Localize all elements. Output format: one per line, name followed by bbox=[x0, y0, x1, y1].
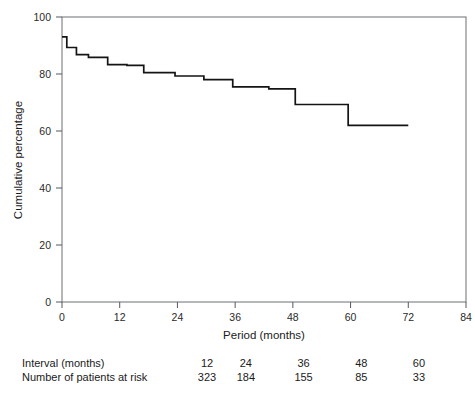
x-tick-label: 12 bbox=[114, 311, 126, 323]
risk-table-element: Interval (months)1224364860 Number of pa… bbox=[0, 356, 475, 384]
x-tick-label: 24 bbox=[172, 311, 184, 323]
risk-cell: 33 bbox=[390, 370, 448, 384]
x-axis-ticks: 012243648607284 bbox=[59, 302, 472, 323]
y-tick-label: 100 bbox=[33, 11, 51, 23]
step-curve bbox=[62, 37, 408, 125]
risk-cell: 12 bbox=[197, 356, 217, 370]
x-axis-label: Period (months) bbox=[223, 329, 305, 341]
x-tick-label: 36 bbox=[229, 311, 241, 323]
risk-cell: 184 bbox=[217, 370, 275, 384]
risk-cell: 24 bbox=[217, 356, 275, 370]
x-tick-label: 84 bbox=[460, 311, 472, 323]
x-tick-label: 48 bbox=[287, 311, 299, 323]
plot-frame bbox=[62, 17, 466, 302]
risk-cell: 155 bbox=[275, 370, 333, 384]
risk-cell: 323 bbox=[197, 370, 217, 384]
y-tick-label: 40 bbox=[39, 182, 51, 194]
risk-cell: 36 bbox=[275, 356, 333, 370]
y-axis-ticks: 020406080100 bbox=[33, 11, 62, 308]
y-tick-label: 0 bbox=[45, 296, 51, 308]
y-tick-label: 60 bbox=[39, 125, 51, 137]
risk-cell: 60 bbox=[390, 356, 448, 370]
y-axis-label: Cumulative percentage bbox=[12, 101, 24, 219]
risk-row-label: Number of patients at risk bbox=[0, 370, 197, 384]
risk-table-row: Interval (months)1224364860 bbox=[0, 356, 475, 370]
x-tick-label: 0 bbox=[59, 311, 65, 323]
chart-svg: 012243648607284 020406080100 Period (mon… bbox=[0, 0, 475, 352]
risk-row-spacer bbox=[448, 356, 475, 370]
y-tick-label: 20 bbox=[39, 239, 51, 251]
risk-row-spacer bbox=[448, 370, 475, 384]
risk-table-row: Number of patients at risk3231841558533 bbox=[0, 370, 475, 384]
x-tick-label: 60 bbox=[345, 311, 357, 323]
risk-row-label: Interval (months) bbox=[0, 356, 197, 370]
survival-chart-figure: 012243648607284 020406080100 Period (mon… bbox=[0, 0, 475, 407]
risk-cell: 85 bbox=[332, 370, 390, 384]
plot-area: 012243648607284 020406080100 Period (mon… bbox=[0, 0, 475, 352]
step-curve-group bbox=[62, 37, 408, 125]
y-tick-label: 80 bbox=[39, 68, 51, 80]
risk-cell: 48 bbox=[332, 356, 390, 370]
numbers-at-risk-table: Interval (months)1224364860 Number of pa… bbox=[0, 356, 475, 404]
x-tick-label: 72 bbox=[402, 311, 414, 323]
